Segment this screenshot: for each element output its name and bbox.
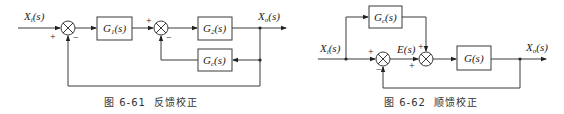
- error-label: E(s): [396, 43, 416, 56]
- block-g-label: G(s): [464, 52, 484, 65]
- figure-6-61-caption-number: 图 6-61: [104, 97, 146, 108]
- sum2-plus-sign: +: [146, 15, 152, 26]
- feedforward-line-to-gc: [346, 17, 368, 59]
- figure-6-62-caption-title: 顺馈校正: [434, 96, 478, 108]
- figure-6-62-caption-number: 图 6-62: [384, 97, 426, 108]
- block-gc-label: Gc(s): [374, 11, 397, 25]
- sum1-plus-sign: +: [368, 46, 374, 57]
- sum2-feedforward-plus-sign: +: [418, 41, 424, 52]
- sum2-minus-sign: −: [166, 32, 172, 43]
- block-diagrams: Xi(s) + − G1(s) + − G2(s) Xo(s): [0, 0, 564, 114]
- summing-junction-2: [419, 52, 433, 66]
- block-g2-label: G2(s): [203, 22, 226, 36]
- feedback-line: [383, 59, 520, 88]
- sum1-minus-sign: −: [376, 64, 382, 75]
- sum1-minus-sign: −: [73, 32, 79, 43]
- output-label: Xo(s): [257, 10, 280, 24]
- figure-6-61-feedback-correction: Xi(s) + − G1(s) + − G2(s) Xo(s): [18, 10, 286, 108]
- sum2-error-plus-sign: +: [409, 60, 415, 71]
- input-label: Xi(s): [319, 42, 341, 56]
- block-g1-label: G1(s): [103, 22, 126, 36]
- figure-6-61-caption-title: 反馈校正: [154, 96, 198, 108]
- input-label: Xi(s): [23, 10, 45, 24]
- sum1-plus-sign: +: [50, 31, 56, 42]
- block-gc-label: Gc(s): [203, 54, 226, 68]
- output-label: Xo(s): [525, 41, 548, 55]
- figure-6-62-feedforward-correction: Xi(s) Gc(s) + − E(s) + + G(s): [318, 6, 548, 108]
